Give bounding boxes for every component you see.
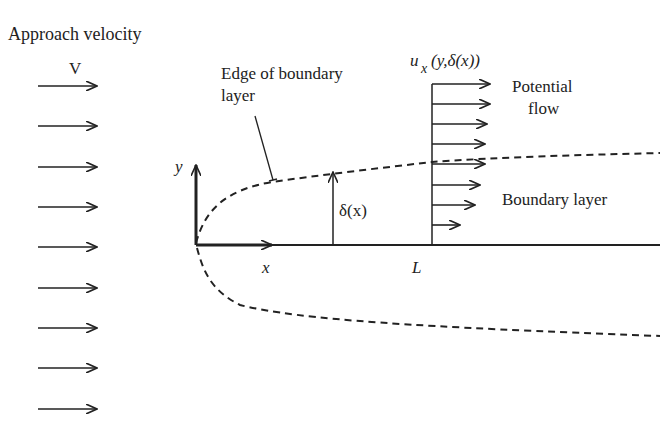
y-axis-label: y	[173, 157, 183, 176]
boundary-layer-diagram: Approach velocity V Edge of boundary lay…	[0, 0, 667, 435]
x-axis-label: x	[261, 258, 270, 277]
edge-leader-line	[255, 116, 273, 180]
edge-label-line1: Edge of boundary	[221, 64, 343, 83]
profile-u-subscript: x	[420, 61, 428, 76]
length-label: L	[411, 258, 421, 277]
velocity-symbol: V	[69, 59, 82, 78]
approach-velocity-arrows	[38, 86, 97, 409]
profile-args-label: (y,δ(x))	[431, 51, 480, 70]
profile-u-label: u	[410, 51, 419, 70]
potential-flow-line1: Potential	[512, 77, 573, 96]
boundary-layer-label: Boundary layer	[502, 190, 608, 209]
diagram-svg: Approach velocity V Edge of boundary lay…	[0, 0, 667, 435]
velocity-profile-arrows	[432, 84, 490, 225]
approach-velocity-label: Approach velocity	[8, 24, 141, 44]
edge-label-line2: layer	[221, 86, 255, 105]
delta-label: δ(x)	[339, 201, 367, 220]
potential-flow-line2: flow	[528, 99, 560, 118]
